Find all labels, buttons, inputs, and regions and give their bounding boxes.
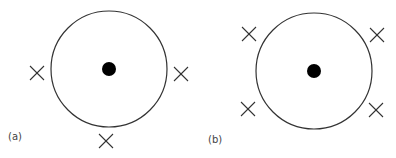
cross-icon — [370, 28, 384, 42]
cross-icon — [30, 66, 44, 80]
center-dot — [102, 62, 116, 76]
cross-icon — [369, 103, 383, 117]
panel-a — [30, 11, 188, 148]
panel-label-a: (a) — [8, 131, 22, 142]
cross-icon — [99, 134, 113, 148]
cross-icon — [241, 102, 255, 116]
center-dot — [307, 64, 321, 78]
panel-label-b: (b) — [208, 134, 222, 145]
cross-icon — [242, 27, 256, 41]
diagram-canvas — [0, 0, 396, 158]
cross-icon — [174, 67, 188, 81]
panel-b — [241, 13, 384, 129]
cross-markers — [30, 66, 188, 148]
